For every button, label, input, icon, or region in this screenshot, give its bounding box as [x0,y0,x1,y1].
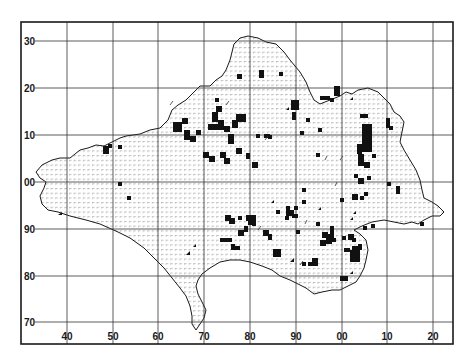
x-axis-label: 80 [244,331,256,342]
coastline-outline [36,36,444,330]
x-axis-label: 20 [427,331,439,342]
y-axis-label: 00 [24,177,36,188]
x-axis-label: 50 [107,331,119,342]
county-land [36,36,444,330]
y-axis-label: 90 [24,224,36,235]
x-axis-label: 60 [152,331,164,342]
y-axis-label: 80 [24,271,36,282]
x-axis-label: 40 [61,331,73,342]
y-axis-label: 30 [24,36,36,47]
x-axis-label: 10 [381,331,393,342]
map-canvas: 405060708090001020 30201000908070 [0,0,476,364]
y-axis-label: 10 [24,130,36,141]
x-axis-label: 90 [290,331,302,342]
y-axis-labels: 30201000908070 [24,36,36,328]
y-axis-label: 70 [24,317,36,328]
y-axis-label: 20 [24,83,36,94]
x-axis-label: 00 [336,331,348,342]
x-axis-label: 70 [198,331,210,342]
x-axis-labels: 405060708090001020 [61,331,439,342]
distribution-map: 405060708090001020 30201000908070 [0,0,476,364]
